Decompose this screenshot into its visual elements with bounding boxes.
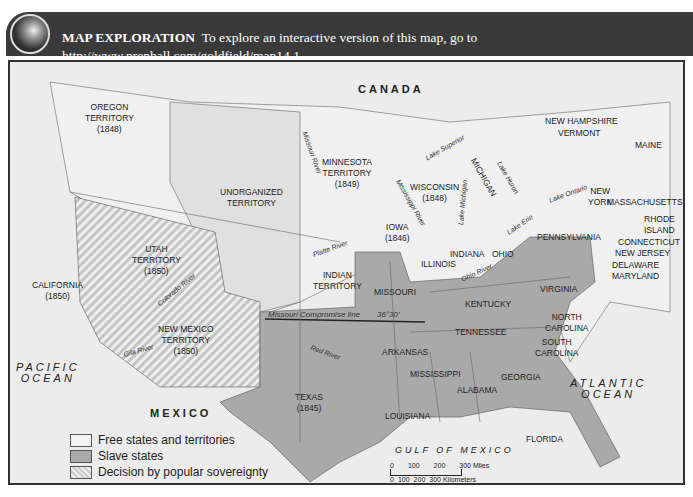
territory-indian: INDIANTERRITORY (313, 270, 362, 292)
state-virginia: VIRGINIA (540, 284, 577, 295)
state-mississippi: MISSISSIPPI (410, 369, 461, 380)
territory-unorganized: UNORGANIZEDTERRITORY (220, 187, 283, 209)
header-description: To explore an interactive version of thi… (202, 30, 478, 45)
territory-new-mexico: NEW MEXICOTERRITORY(1850) (158, 324, 214, 357)
label-gulf: GULF OF MEXICO (395, 445, 514, 456)
territory-oregon: OREGONTERRITORY(1848) (85, 102, 134, 135)
state-south-carolina: SOUTHCAROLINA (535, 337, 578, 359)
territory-minnesota: MINNESOTATERRITORY(1849) (322, 157, 372, 190)
state-illinois: ILLINOIS (421, 259, 456, 270)
legend-item-slave: Slave states (70, 448, 268, 464)
swatch-popular-sovereignty (70, 466, 92, 479)
state-iowa: IOWA(1846) (385, 222, 410, 244)
legend-item-popular-sovereignty: Decision by popular sovereignty (70, 464, 268, 480)
map-exploration-header: MAP EXPLORATION To explore an interactiv… (6, 12, 693, 56)
label-atlantic: ATLANTICOCEAN (570, 378, 646, 400)
state-georgia: GEORGIA (501, 372, 541, 383)
state-new-jersey: NEW JERSEY (615, 248, 670, 259)
state-connecticut: CONNECTICUT (618, 237, 680, 248)
state-wisconsin: WISCONSIN(1848) (410, 182, 459, 204)
territory-utah: UTAHTERRITORY(1850) (132, 244, 181, 277)
state-louisiana: LOUISIANA (385, 411, 430, 422)
state-vermont: VERMONT (558, 128, 601, 139)
header-lead: MAP EXPLORATION (62, 30, 195, 45)
state-north-carolina: NORTHCAROLINA (545, 312, 588, 334)
state-maine: MAINE (635, 140, 662, 151)
state-maryland: MARYLAND (612, 271, 659, 282)
state-pennsylvania: PENNSYLVANIA (537, 232, 601, 243)
legend-item-free: Free states and territories (70, 432, 268, 448)
label-pacific: PACIFICOCEAN (16, 362, 80, 384)
scale-bar: 0100200300 Miles 0100200300 Kilometers (390, 462, 489, 483)
state-rhode-island: RHODEISLAND (644, 214, 675, 236)
state-delaware: DELAWARE (612, 260, 659, 271)
state-arkansas: ARKANSAS (382, 347, 428, 358)
state-missouri: MISSOURI (374, 287, 416, 298)
label-compromise-latitude: 36°30' (377, 309, 400, 320)
swatch-free (70, 434, 92, 447)
state-kentucky: KENTUCKY (465, 299, 511, 310)
swatch-slave (70, 450, 92, 463)
globe-icon (10, 14, 50, 54)
us-map-1850: CANADA MEXICO PACIFICOCEAN ATLANTICOCEAN… (8, 60, 685, 485)
label-missouri-compromise-line: Missouri Compromise line (268, 309, 360, 320)
label-canada: CANADA (358, 84, 424, 95)
map-legend: Free states and territories Slave states… (70, 432, 268, 480)
state-tennessee: TENNESSEE (455, 327, 507, 338)
state-california: CALIFORNIA(1850) (32, 280, 83, 302)
label-mexico: MEXICO (150, 408, 211, 419)
state-florida: FLORIDA (526, 434, 563, 445)
state-ohio: OHIO (492, 249, 514, 260)
state-new-hampshire: NEW HAMPSHIRE (545, 116, 618, 127)
state-massachusetts: MASSACHUSETTS (607, 197, 683, 208)
state-texas: TEXAS(1845) (295, 392, 323, 414)
state-alabama: ALABAMA (457, 385, 497, 396)
state-indiana: INDIANA (450, 249, 484, 260)
